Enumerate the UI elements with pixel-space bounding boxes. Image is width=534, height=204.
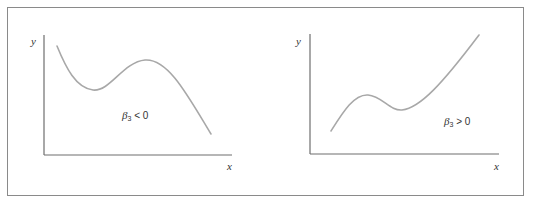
left-y-axis-label: y xyxy=(31,36,36,47)
condition-text: > 0 xyxy=(453,116,470,127)
right-axes xyxy=(310,34,499,154)
right-condition-label: β3 > 0 xyxy=(444,116,470,128)
condition-text: < 0 xyxy=(131,110,148,121)
right-x-axis-label: x xyxy=(494,161,499,172)
left-x-axis-label: x xyxy=(227,161,232,172)
left-condition-label: β3 < 0 xyxy=(122,110,148,122)
plots-svg xyxy=(0,0,534,204)
left-axes xyxy=(44,35,232,155)
right-y-axis-label: y xyxy=(296,36,301,47)
